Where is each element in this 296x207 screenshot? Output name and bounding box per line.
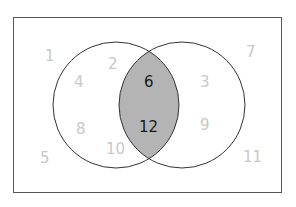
number-6: 6	[144, 73, 154, 91]
number-11: 11	[243, 148, 262, 166]
number-4: 4	[74, 73, 84, 91]
number-3: 3	[200, 73, 210, 91]
number-9: 9	[200, 116, 210, 134]
number-2: 2	[108, 55, 118, 73]
number-1: 1	[45, 47, 55, 65]
number-5: 5	[40, 149, 50, 167]
number-7: 7	[246, 43, 256, 61]
venn-diagram: 1 5 7 11 2 4 8 10 6 12 3 9	[0, 0, 296, 207]
number-8: 8	[76, 120, 86, 138]
number-12: 12	[139, 118, 158, 136]
number-10: 10	[106, 140, 125, 158]
